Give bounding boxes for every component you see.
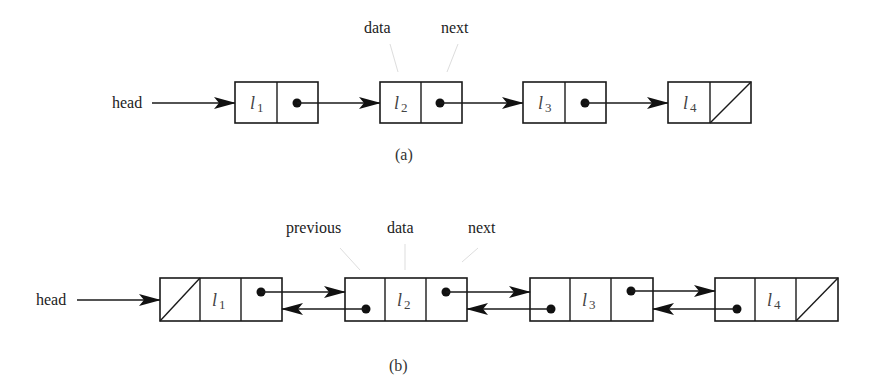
caption-a: (a) xyxy=(395,146,413,164)
field-label-data: data xyxy=(387,219,414,236)
head-label: head xyxy=(112,94,142,111)
leader-line-next xyxy=(462,248,478,262)
linked-list-figure: data next head l1 l2 l3 xyxy=(0,0,881,388)
field-label-next: next xyxy=(441,19,469,36)
field-label-previous: previous xyxy=(286,219,341,237)
list-node-1: l1 xyxy=(160,278,282,321)
leader-line-next xyxy=(447,44,458,72)
list-node-2: l2 xyxy=(345,278,467,321)
leader-line-data xyxy=(390,44,398,72)
leader-line-previous xyxy=(340,248,360,270)
field-label-next: next xyxy=(468,219,496,236)
doubly-linked-list-diagram: previous data next head l1 l2 xyxy=(36,219,838,375)
field-label-data: data xyxy=(364,19,391,36)
list-node-4: l4 xyxy=(715,278,838,321)
head-label: head xyxy=(36,291,66,308)
list-node-3: l3 xyxy=(530,278,653,321)
caption-b: (b) xyxy=(389,357,408,375)
singly-linked-list-diagram: data next head l1 l2 l3 xyxy=(112,19,751,164)
list-node-4: l4 xyxy=(668,82,751,123)
